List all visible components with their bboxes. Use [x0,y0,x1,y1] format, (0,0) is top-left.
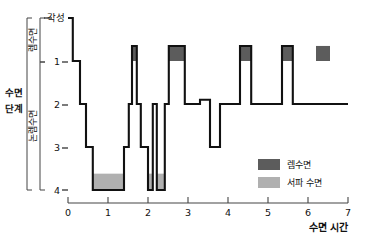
hypnogram-figure: 수면 단계 렘수면 논렘수면 각성 1 2 3 4 [0,0,366,239]
x-axis [68,197,348,203]
y-tick-label-2: 2 [54,99,60,110]
y-tick-label-4: 4 [54,185,60,196]
x-axis-title: 수면 시간 [309,221,349,233]
x-tick-label-7: 7 [345,207,351,218]
x-tick-label-1: 1 [105,207,111,218]
rem-episode-4 [282,46,293,61]
y-axis-title-line1: 수면 [5,87,23,98]
rem-episode-blocks [132,46,330,61]
y-axis-nrem-bracket [40,62,45,190]
hypnogram-chart: 수면 단계 렘수면 논렘수면 각성 1 2 3 4 [0,0,366,239]
legend-swatch-rem [258,159,280,170]
x-tick-label-6: 6 [305,207,311,218]
legend-swatch-slow-wave [258,177,280,188]
y-tick-label-3: 3 [54,142,60,153]
rem-episode-3 [240,46,251,61]
x-tick-label-5: 5 [265,207,271,218]
y-bracket-label-rem: 렘수면 [27,28,38,52]
x-tick-label-4: 4 [225,207,231,218]
x-tick-label-3: 3 [185,207,191,218]
x-tick-label-0: 0 [65,207,71,218]
y-bracket-label-nrem: 논렘수면 [27,110,38,142]
legend-label-rem: 렘수면 [287,159,311,170]
slow-wave-episode-blocks [93,174,165,190]
y-tick-label-1: 1 [54,56,60,67]
slow-wave-episode-1 [93,174,124,190]
y-axis-title-line2: 단계 [5,103,23,114]
y-axis-rem-bracket [40,18,45,62]
x-tick-label-2: 2 [145,207,151,218]
legend-label-slow-wave: 서파 수면 [287,178,322,188]
slow-wave-episode-3 [157,174,165,190]
rem-episode-2 [169,46,185,61]
rem-episode-5 [316,46,330,61]
legend: 렘수면 서파 수면 [258,159,322,188]
